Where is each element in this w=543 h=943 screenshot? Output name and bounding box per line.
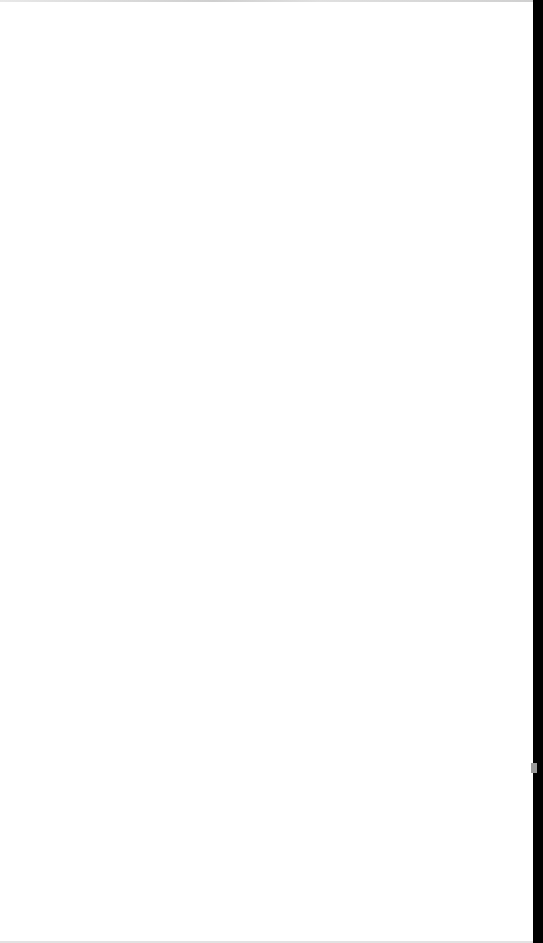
- edge-marker: [531, 763, 537, 773]
- blank-page: [0, 0, 533, 943]
- top-edge-divider: [0, 0, 533, 2]
- right-edge-bar: [533, 0, 543, 943]
- faint-illegible-text: [282, 172, 342, 186]
